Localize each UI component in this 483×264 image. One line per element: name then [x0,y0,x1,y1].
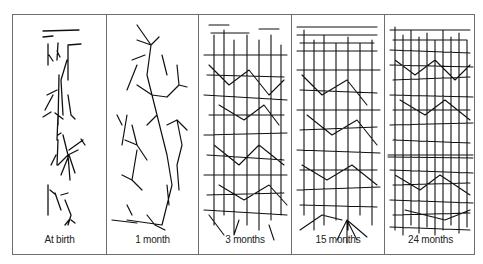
panel-3-months: 3 months [198,15,291,254]
panel-label: 24 months [385,234,476,245]
neuron-drawing-3-months [199,15,292,256]
panel-label: 1 month [107,234,198,245]
panel-24-months: 24 months [384,15,476,254]
panel-15-months: 15 months [291,15,384,254]
panel-label: 15 months [292,234,384,245]
panel-at-birth: At birth [13,15,106,254]
panel-label: At birth [13,234,106,245]
panel-label: 3 months [199,234,291,245]
figure-frame: At birth 1 month 3 months 15 months 24 m… [12,14,475,255]
panel-1-month: 1 month [106,15,198,254]
neuron-drawing-at-birth [13,15,106,256]
neuron-drawing-1-month [107,15,199,256]
neuron-drawing-15-months [292,15,385,256]
neuron-drawing-24-months [385,15,477,256]
